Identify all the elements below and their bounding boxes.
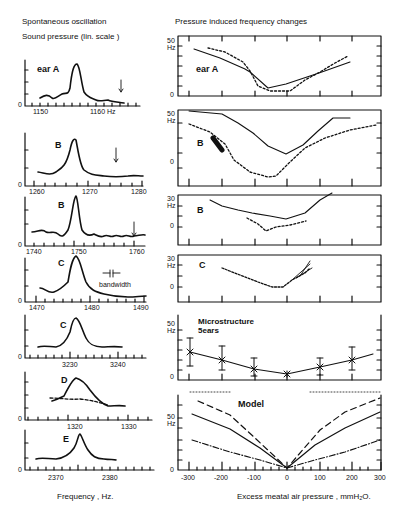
left-panel-label-c1: C: [58, 258, 65, 268]
right-y-50-1: 50Hz: [167, 37, 176, 51]
tick-1330: 1330: [121, 423, 137, 430]
left-zero-2: 0: [18, 181, 22, 188]
right-panel-label-ear-a: ear A: [196, 64, 218, 74]
left-panel-c1: [25, 256, 146, 302]
left-panel-b1: [25, 133, 143, 186]
right-zero-3: 0: [170, 222, 174, 229]
tick-1490: 1490: [133, 304, 149, 311]
tick-2370: 2370: [48, 474, 64, 481]
tick-1270: 1270: [82, 188, 98, 195]
left-panel-label-d: D: [61, 375, 68, 385]
right-panel-c: [178, 255, 381, 302]
left-panel-d: [25, 372, 152, 420]
tick-1260: 1260: [29, 188, 45, 195]
tick-1280: 1280: [131, 188, 147, 195]
right-tick-minus-100: -100: [247, 474, 261, 481]
tick-1480: 1480: [84, 304, 100, 311]
tick-1470: 1470: [29, 304, 45, 311]
tick-1150: 1150: [33, 108, 48, 115]
right-panel-label-model: Model: [238, 399, 264, 409]
right-y-50-6: 50Hz: [167, 413, 176, 427]
right-panel-model: [178, 395, 381, 470]
right-panel-b2: [178, 193, 381, 245]
right-panel-label-microstructure: Microstructure 5ears: [198, 317, 268, 335]
right-tick-minus-200: -200: [214, 474, 228, 481]
left-panel-e: [25, 430, 154, 470]
right-panel-label-b2: B: [197, 205, 204, 215]
bandwidth-label: bandwidth: [99, 281, 131, 288]
left-panel-label-e: E: [63, 434, 69, 444]
right-y-50-2: 50Hz: [167, 110, 176, 124]
right-tick-300: 300: [374, 474, 386, 481]
left-panel-label-ear-a: ear A: [37, 64, 59, 74]
tick-1320: 1320: [67, 423, 83, 430]
left-panel-b2: [25, 196, 145, 246]
tick-3240: 3240: [110, 361, 126, 368]
right-tick-0: 0: [285, 474, 289, 481]
right-tick-200: 200: [346, 474, 358, 481]
right-panel-label-b1: B: [197, 138, 204, 148]
left-panel-label-c2: C: [60, 320, 67, 330]
tick-2380: 2380: [102, 474, 118, 481]
left-panel-label-b2: B: [58, 200, 65, 210]
right-zero-5: 0: [170, 373, 174, 380]
right-y-30-3: 30Hz: [167, 195, 176, 209]
tick-3230: 3230: [62, 361, 78, 368]
tick-1160: 1160 Hz: [90, 108, 116, 115]
left-panel-label-b1: B: [55, 140, 62, 150]
left-zero-4: 0: [18, 297, 22, 304]
right-zero-2: 0: [170, 158, 174, 165]
tick-1740: 1740: [26, 248, 42, 255]
left-zero-6: 0: [18, 415, 22, 422]
right-x-axis-label: Excess meatal air pressure , mmH₂O.: [237, 492, 371, 501]
right-y-30-4: 30Hz: [167, 255, 176, 269]
left-zero-7: 0: [18, 466, 22, 473]
right-tick-minus-300: -300: [181, 474, 195, 481]
left-panel-c2: [25, 315, 146, 358]
left-zero-1: 0: [18, 101, 22, 108]
right-zero-4: 0: [170, 283, 174, 290]
left-x-axis-label: Frequency , Hz.: [57, 492, 113, 501]
right-tick-100: 100: [314, 474, 326, 481]
right-panel-b1: [178, 110, 381, 186]
tick-1750: 1750: [71, 248, 87, 255]
left-zero-3: 0: [18, 241, 22, 248]
right-panel-label-c: C: [199, 260, 206, 270]
tick-1760: 1760: [129, 248, 145, 255]
left-zero-5: 0: [18, 353, 22, 360]
right-y-50-5: 50Hz: [167, 320, 176, 334]
right-zero-6: 0: [170, 466, 174, 473]
right-zero-1: 0: [170, 91, 174, 98]
